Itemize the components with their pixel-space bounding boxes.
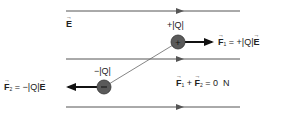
negative-charge-label: −|Q| — [94, 67, 111, 76]
negative-charge — [97, 80, 111, 94]
force1-eq: = +|Q| — [226, 37, 253, 47]
force1-symbol: F — [218, 38, 224, 47]
force2-equation: F2 = −|Q|E — [4, 83, 46, 92]
force2-eq: = −|Q| — [12, 82, 39, 92]
svg-text:+: + — [175, 38, 180, 48]
force1-equation: F1 = +|Q|E — [218, 38, 260, 47]
dipole-rod — [104, 42, 178, 87]
field-label: E — [66, 20, 72, 29]
sum-f1: F — [176, 79, 182, 88]
field-line-bottom — [66, 104, 240, 110]
force1-field: E — [253, 38, 259, 47]
sum-plus: + — [184, 78, 194, 88]
force2-symbol: F — [4, 83, 10, 92]
force2-field: E — [39, 83, 45, 92]
field-diagram: + — [0, 0, 283, 117]
field-symbol: E — [66, 20, 72, 29]
field-line-top — [66, 8, 240, 14]
positive-charge-label: +|Q| — [167, 21, 184, 30]
sum-result: = 0 N — [203, 78, 230, 88]
positive-charge: + — [171, 35, 185, 49]
sum-f2: F — [195, 79, 201, 88]
force-sum-equation: F1 + F2 = 0 N — [176, 79, 230, 88]
